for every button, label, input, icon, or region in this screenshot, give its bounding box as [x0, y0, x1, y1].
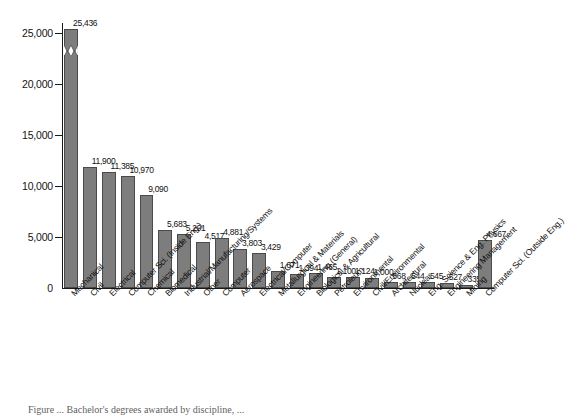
bar[interactable]	[64, 29, 78, 288]
y-axis-tick-label: 0	[47, 282, 53, 294]
figure-caption: Figure ... Bachelor's degrees awarded by…	[28, 404, 488, 415]
y-axis-tick-label: 25,000	[22, 27, 53, 39]
bar-slot	[384, 23, 398, 288]
axis-break-marker	[64, 43, 78, 55]
bar-slot	[121, 23, 135, 288]
bar-slot	[196, 23, 210, 288]
bar-slot	[140, 23, 154, 288]
x-axis-labels: MechanicalCivilElectricalComputer Sci. (…	[62, 291, 494, 396]
bar-slot	[440, 23, 454, 288]
bar-slot	[271, 23, 285, 288]
bar-slot	[64, 23, 78, 288]
y-axis-tick-label: 15,000	[22, 129, 53, 141]
y-axis-tick-label: 20,000	[22, 78, 53, 90]
bar-slot	[102, 23, 116, 288]
bar[interactable]	[102, 172, 116, 288]
y-axis-tick-label: 5,000	[28, 231, 53, 243]
bars-group: 25,43611,90011,38510,9709,0905,6835,2914…	[62, 23, 494, 288]
y-axis-tick-label: 10,000	[22, 180, 53, 192]
